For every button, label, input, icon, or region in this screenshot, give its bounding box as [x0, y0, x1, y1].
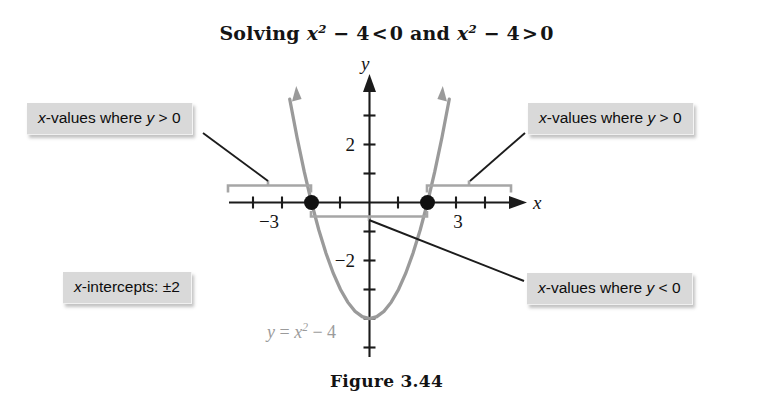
leader-line-left-callout: [203, 133, 268, 181]
curve-arrowhead-right: [437, 86, 447, 102]
callout-right-y-positive: x-values where y > 0: [528, 103, 694, 135]
x-axis-label: x: [532, 192, 542, 213]
x-tick-label-neg3: −3: [259, 211, 279, 232]
equation-equals: =: [275, 322, 294, 342]
x-axis-arrowhead: [509, 196, 527, 209]
callout-right-var: x: [539, 109, 547, 126]
curve-arrowhead-left: [292, 86, 302, 102]
interval-bracket-right: [427, 181, 511, 193]
y-tick-label-neg2: −2: [335, 250, 355, 271]
callout-x-intercepts: x-intercepts: ±2: [63, 272, 192, 304]
callout-right-text: -values where: [547, 109, 648, 126]
y-tick-label-2: 2: [346, 134, 356, 155]
figure-caption: Figure 3.44: [0, 371, 773, 391]
x-tick-label-3: 3: [453, 211, 463, 232]
equation-lhs: y: [265, 322, 275, 342]
callout-left-var: x: [38, 109, 46, 126]
x-intercept-point-right: [420, 195, 435, 210]
y-axis-arrowhead: [363, 74, 376, 92]
callout-left-y-positive: x-values where y > 0: [27, 103, 193, 135]
y-axis-label: y: [359, 53, 370, 74]
callout-right-relation: > 0: [655, 109, 681, 126]
figure-container: Solving x2 − 4<0 and x2 − 4>0: [0, 0, 773, 407]
callout-xint-text: -intercepts: ±2: [82, 278, 180, 295]
x-intercept-point-left: [304, 195, 319, 210]
equation-rest: − 4: [308, 322, 336, 342]
equation-label: y = x2 − 4: [265, 321, 336, 342]
x-axis: [229, 196, 527, 209]
callout-below-var: x: [538, 279, 546, 296]
callout-below-text: -values where: [546, 279, 647, 296]
leader-line-below-callout: [369, 220, 524, 281]
callout-y-negative: x-values where y < 0: [527, 273, 693, 305]
callout-left-text: -values where: [46, 109, 147, 126]
callout-xint-var: x: [74, 278, 82, 295]
callout-left-relation: > 0: [154, 109, 180, 126]
callout-below-relation: < 0: [654, 279, 680, 296]
equation-base: x: [293, 322, 302, 342]
interval-bracket-left: [228, 181, 311, 193]
coordinate-plane: x y −3 3 2 −2: [0, 0, 773, 407]
leader-line-right-callout: [470, 133, 525, 181]
